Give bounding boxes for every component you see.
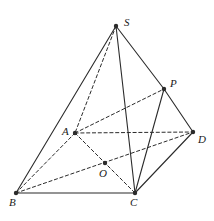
vertex-label-c: C	[130, 197, 137, 208]
edge-A-P	[75, 89, 164, 133]
edge-P-D	[164, 89, 193, 132]
edge-S-P	[116, 26, 164, 89]
edge-S-C	[116, 26, 135, 193]
vertex-dot-p	[162, 87, 166, 91]
vertex-dot-o	[103, 161, 107, 165]
vertex-dot-a	[73, 131, 77, 135]
vertex-label-d: D	[198, 134, 206, 145]
vertex-label-b: B	[9, 197, 16, 208]
vertex-label-o: O	[99, 168, 107, 179]
vertex-label-s: S	[124, 17, 130, 28]
vertex-dot-b	[14, 191, 18, 195]
vertex-dot-s	[114, 24, 118, 28]
edge-A-B	[16, 133, 75, 193]
vertex-dot-d	[191, 130, 195, 134]
vertex-label-p: P	[170, 78, 177, 89]
edge-S-A	[75, 26, 116, 133]
geometry-canvas	[0, 0, 214, 221]
edge-A-D	[75, 132, 193, 133]
vertex-dot-c	[133, 191, 137, 195]
vertex-label-a: A	[62, 126, 69, 137]
geometry-figure: SPDAOBC	[0, 0, 214, 221]
